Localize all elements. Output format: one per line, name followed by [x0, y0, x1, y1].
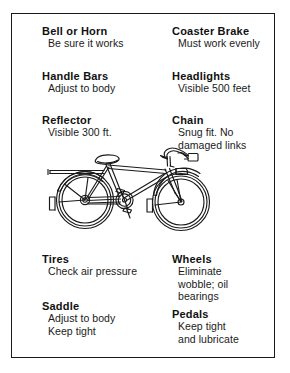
entry-detail-coaster-brake: Must work evenly	[172, 37, 290, 50]
entry-detail-saddle: Adjust to body Keep tight	[42, 312, 160, 337]
entry-detail-line: wobble; oil	[178, 278, 290, 291]
entry-title-handle-bars: Handle Bars	[42, 70, 160, 82]
entry-detail-reflector: Visible 300 ft.	[42, 126, 160, 139]
front-reflector	[147, 199, 153, 212]
checklist-entry-saddle: Saddle Adjust to body Keep tight	[42, 300, 160, 337]
entry-detail-line: Must work evenly	[178, 37, 290, 50]
entry-detail-headlights: Visible 500 feet	[172, 82, 290, 95]
rear-reflector	[50, 197, 56, 210]
handlebar-grip-right	[188, 154, 198, 162]
checklist-entry-tires: Tires Check air pressure	[42, 253, 160, 278]
entry-detail-line: bearings	[178, 290, 290, 303]
entry-detail-line: Visible 300 ft.	[48, 126, 160, 139]
front-fender-end-cap	[154, 195, 157, 196]
bicycle-line-drawing-svg	[36, 143, 246, 245]
entry-title-pedals: Pedals	[172, 308, 290, 320]
entry-detail-line: Visible 500 feet	[178, 82, 290, 95]
handlebar-stem-b	[170, 157, 171, 167]
front-spoke-1	[155, 202, 181, 205]
entry-title-bell-or-horn: Bell or Horn	[42, 25, 160, 37]
checklist-entry-reflector: Reflector Visible 300 ft.	[42, 114, 160, 139]
entry-detail-pedals: Keep tight and lubricate	[172, 320, 290, 345]
checklist-entry-headlights: Headlights Visible 500 feet	[172, 70, 290, 95]
entry-detail-line: Adjust to body	[48, 82, 160, 95]
entry-detail-line: Adjust to body	[48, 312, 160, 325]
entry-detail-bell-or-horn: Be sure it works	[42, 37, 160, 50]
bicycle-safety-poster: Bell or Horn Be sure it works Handle Bar…	[0, 0, 290, 373]
saddle-post-top	[106, 164, 107, 165]
checklist-entry-handle-bars: Handle Bars Adjust to body	[42, 70, 160, 95]
entry-title-wheels: Wheels	[172, 253, 290, 265]
entry-detail-line: Keep tight	[178, 320, 290, 333]
entry-detail-line: Eliminate	[178, 265, 290, 278]
entry-detail-line: Snug fit. No	[178, 126, 290, 139]
entry-title-tires: Tires	[42, 253, 160, 265]
entry-detail-handle-bars: Adjust to body	[42, 82, 160, 95]
entry-detail-line: and lubricate	[178, 333, 290, 346]
rear-spoke-2	[65, 184, 86, 200]
entry-detail-wheels: Eliminate wobble; oil bearings	[172, 265, 290, 303]
entry-detail-tires: Check air pressure	[42, 265, 160, 278]
entry-title-chain: Chain	[172, 114, 290, 126]
entry-title-headlights: Headlights	[172, 70, 290, 82]
checklist-entry-wheels: Wheels Eliminate wobble; oil bearings	[172, 253, 290, 303]
entry-detail-line: Keep tight	[48, 325, 160, 338]
entry-title-coaster-brake: Coaster Brake	[172, 25, 290, 37]
bicycle-illustration	[36, 143, 246, 245]
entry-detail-line: Check air pressure	[48, 265, 160, 278]
checklist-entry-pedals: Pedals Keep tight and lubricate	[172, 308, 290, 345]
chain-upper-run	[88, 197, 120, 198]
chain-stay-b	[88, 202, 121, 203]
checklist-entry-bell-or-horn: Bell or Horn Be sure it works	[42, 25, 160, 50]
checklist-entry-coaster-brake: Coaster Brake Must work evenly	[172, 25, 290, 50]
entry-detail-line: Be sure it works	[48, 37, 160, 50]
entry-title-saddle: Saddle	[42, 300, 160, 312]
entry-title-reflector: Reflector	[42, 114, 160, 126]
